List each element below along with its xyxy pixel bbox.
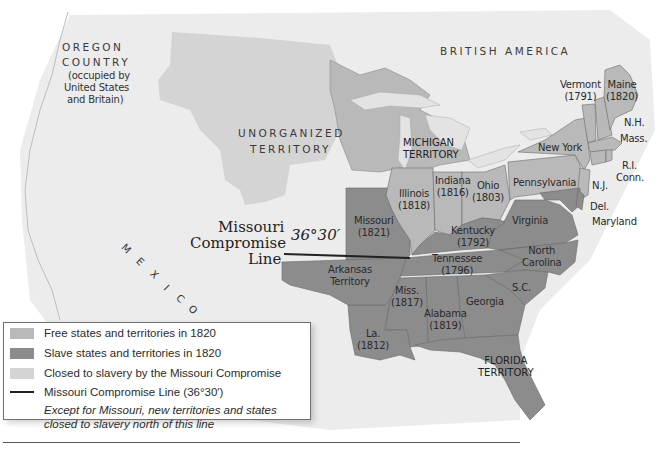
state-label-ohio: Ohio(1803) — [472, 180, 504, 204]
state-label-georgia: Georgia — [466, 296, 504, 308]
state-label-indiana: Indiana(1816) — [435, 175, 471, 199]
state-label-nj: N.J. — [592, 180, 608, 192]
state-label-new-york: New York — [538, 142, 582, 154]
unorganized-label-1: UNORGANIZED — [238, 127, 345, 139]
state-label-conn: Conn. — [616, 172, 644, 184]
free-swatch — [10, 328, 34, 339]
state-label-la: La.(1812) — [357, 328, 389, 352]
unorganized-label-2: TERRITORY — [250, 143, 331, 155]
legend-note-1: Except for Missouri, new territories and… — [44, 403, 277, 417]
legend-label-closed: Closed to slavery by the Missouri Compro… — [44, 367, 281, 379]
state-label-alabama: Alabama(1819) — [424, 308, 467, 332]
oregon-label-3: (occupied by — [68, 70, 130, 82]
bottom-rule — [3, 442, 520, 443]
michigan-label-1: MICHIGAN — [403, 137, 454, 149]
state-label-pennsylvania: Pennsylvania — [513, 177, 576, 189]
line-swatch — [10, 391, 34, 393]
british-america-label: BRITISH AMERICA — [440, 45, 570, 57]
state-label-nh: N.H. — [624, 117, 644, 129]
legend-item-closed: Closed to slavery by the Missouri Compro… — [10, 367, 281, 379]
state-label-mass: Mass. — [620, 133, 647, 145]
legend-label-line: Missouri Compromise Line (36°30′) — [44, 386, 223, 398]
compromise-label-3: Line — [248, 251, 281, 268]
state-label-kentucky: Kentucky(1792) — [451, 225, 495, 249]
state-rhode-island — [606, 150, 612, 162]
compromise-degree-label: 36°30′ — [291, 229, 340, 241]
state-label-miss: Miss.(1817) — [391, 285, 423, 309]
state-label-maryland: Maryland — [592, 216, 637, 228]
state-label-sc: S.C. — [512, 282, 531, 294]
legend-note-2: closed to slavery north of this line — [44, 417, 214, 431]
legend: Free states and territories in 1820 Slav… — [3, 322, 311, 420]
legend-item-slave: Slave states and territories in 1820 — [10, 347, 221, 359]
state-label-vermont: Vermont(1791) — [560, 79, 601, 103]
oregon-label-1: OREGON — [62, 41, 123, 53]
state-label-maine: Maine(1820) — [606, 79, 638, 103]
slave-swatch — [10, 348, 34, 359]
oregon-label-5: and Britain) — [67, 94, 123, 106]
state-connecticut — [590, 150, 606, 165]
state-label-virginia: Virginia — [512, 215, 548, 227]
state-label-del: Del. — [590, 201, 609, 213]
legend-item-line: Missouri Compromise Line (36°30′) — [10, 386, 223, 398]
arkansas-label: ArkansasTerritory — [328, 264, 372, 288]
oregon-label-4: United States — [64, 82, 129, 94]
state-label-nc: NorthCarolina — [522, 245, 562, 269]
state-label-illinois: Illinois(1818) — [398, 188, 430, 212]
legend-label-free: Free states and territories in 1820 — [44, 327, 216, 339]
florida-label: FLORIDATERRITORY — [478, 355, 534, 379]
state-label-tennessee: Tennessee(1796) — [432, 253, 482, 277]
state-label-ri: R.I. — [622, 160, 637, 172]
michigan-label-2: TERRITORY — [403, 149, 459, 161]
closed-swatch — [10, 368, 34, 379]
oregon-label-2: COUNTRY — [62, 56, 130, 68]
state-label-missouri: Missouri(1821) — [354, 215, 394, 239]
legend-item-free: Free states and territories in 1820 — [10, 327, 216, 339]
legend-label-slave: Slave states and territories in 1820 — [44, 347, 221, 359]
